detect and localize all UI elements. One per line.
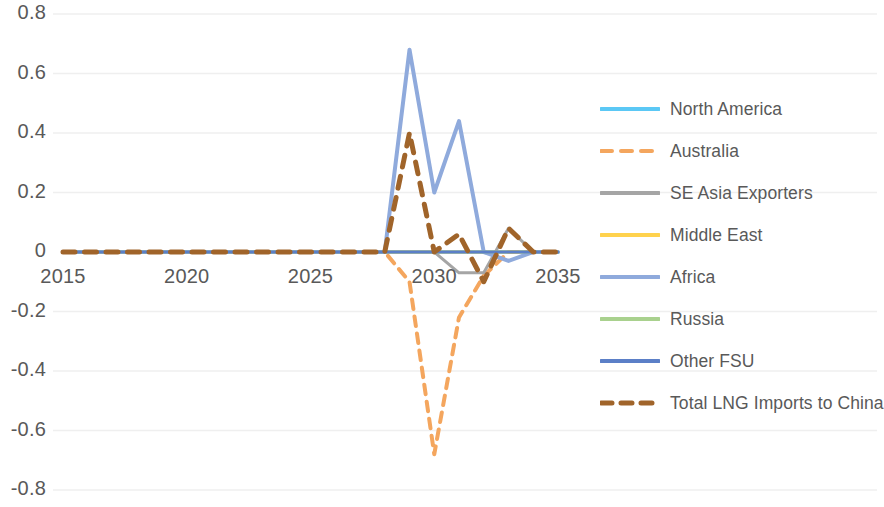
legend-item[interactable]: Russia xyxy=(600,298,875,340)
legend-swatch-line-icon xyxy=(600,312,660,326)
y-tick-label: 0.2 xyxy=(0,180,46,203)
legend-label: Other FSU xyxy=(670,351,755,372)
legend-swatch-line-icon xyxy=(600,396,660,410)
legend-swatch-line-icon xyxy=(600,186,660,200)
legend-swatch-line-icon xyxy=(600,228,660,242)
legend-swatch-line-icon xyxy=(600,102,660,116)
series-line-africa xyxy=(63,50,558,261)
y-tick-label: -0.4 xyxy=(0,358,46,381)
legend-label: Middle East xyxy=(670,225,763,246)
x-tick-label: 2020 xyxy=(152,265,222,288)
y-tick-label: 0.4 xyxy=(0,120,46,143)
legend-label: SE Asia Exporters xyxy=(670,183,813,204)
x-tick-label: 2035 xyxy=(523,265,593,288)
y-tick-label: 0 xyxy=(0,239,46,262)
legend-swatch-line-icon xyxy=(600,144,660,158)
x-tick-label: 2025 xyxy=(276,265,346,288)
legend-label: North America xyxy=(670,99,782,120)
legend-item[interactable]: North America xyxy=(600,88,875,130)
x-tick-label: 2015 xyxy=(28,265,98,288)
legend-swatch-line-icon xyxy=(600,354,660,368)
y-tick-label: -0.6 xyxy=(0,418,46,441)
series-line-total-lng-imports-to-china xyxy=(63,133,558,282)
y-tick-label: -0.8 xyxy=(0,477,46,500)
legend-item[interactable]: Middle East xyxy=(600,214,875,256)
legend-label: Total LNG Imports to China xyxy=(670,393,884,414)
legend-item[interactable]: Africa xyxy=(600,256,875,298)
legend-item[interactable]: SE Asia Exporters xyxy=(600,172,875,214)
legend-swatch-line-icon xyxy=(600,270,660,284)
chart-legend: North AmericaAustraliaSE Asia ExportersM… xyxy=(600,88,875,424)
legend-label: Australia xyxy=(670,141,739,162)
series-group xyxy=(63,50,558,455)
y-tick-label: 0.6 xyxy=(0,61,46,84)
legend-item[interactable]: Total LNG Imports to China xyxy=(600,382,875,424)
x-tick-label: 2030 xyxy=(399,265,469,288)
legend-item[interactable]: Other FSU xyxy=(600,340,875,382)
legend-label: Africa xyxy=(670,267,715,288)
y-tick-label: 0.8 xyxy=(0,1,46,24)
y-tick-label: -0.2 xyxy=(0,299,46,322)
legend-label: Russia xyxy=(670,309,724,330)
legend-item[interactable]: Australia xyxy=(600,130,875,172)
